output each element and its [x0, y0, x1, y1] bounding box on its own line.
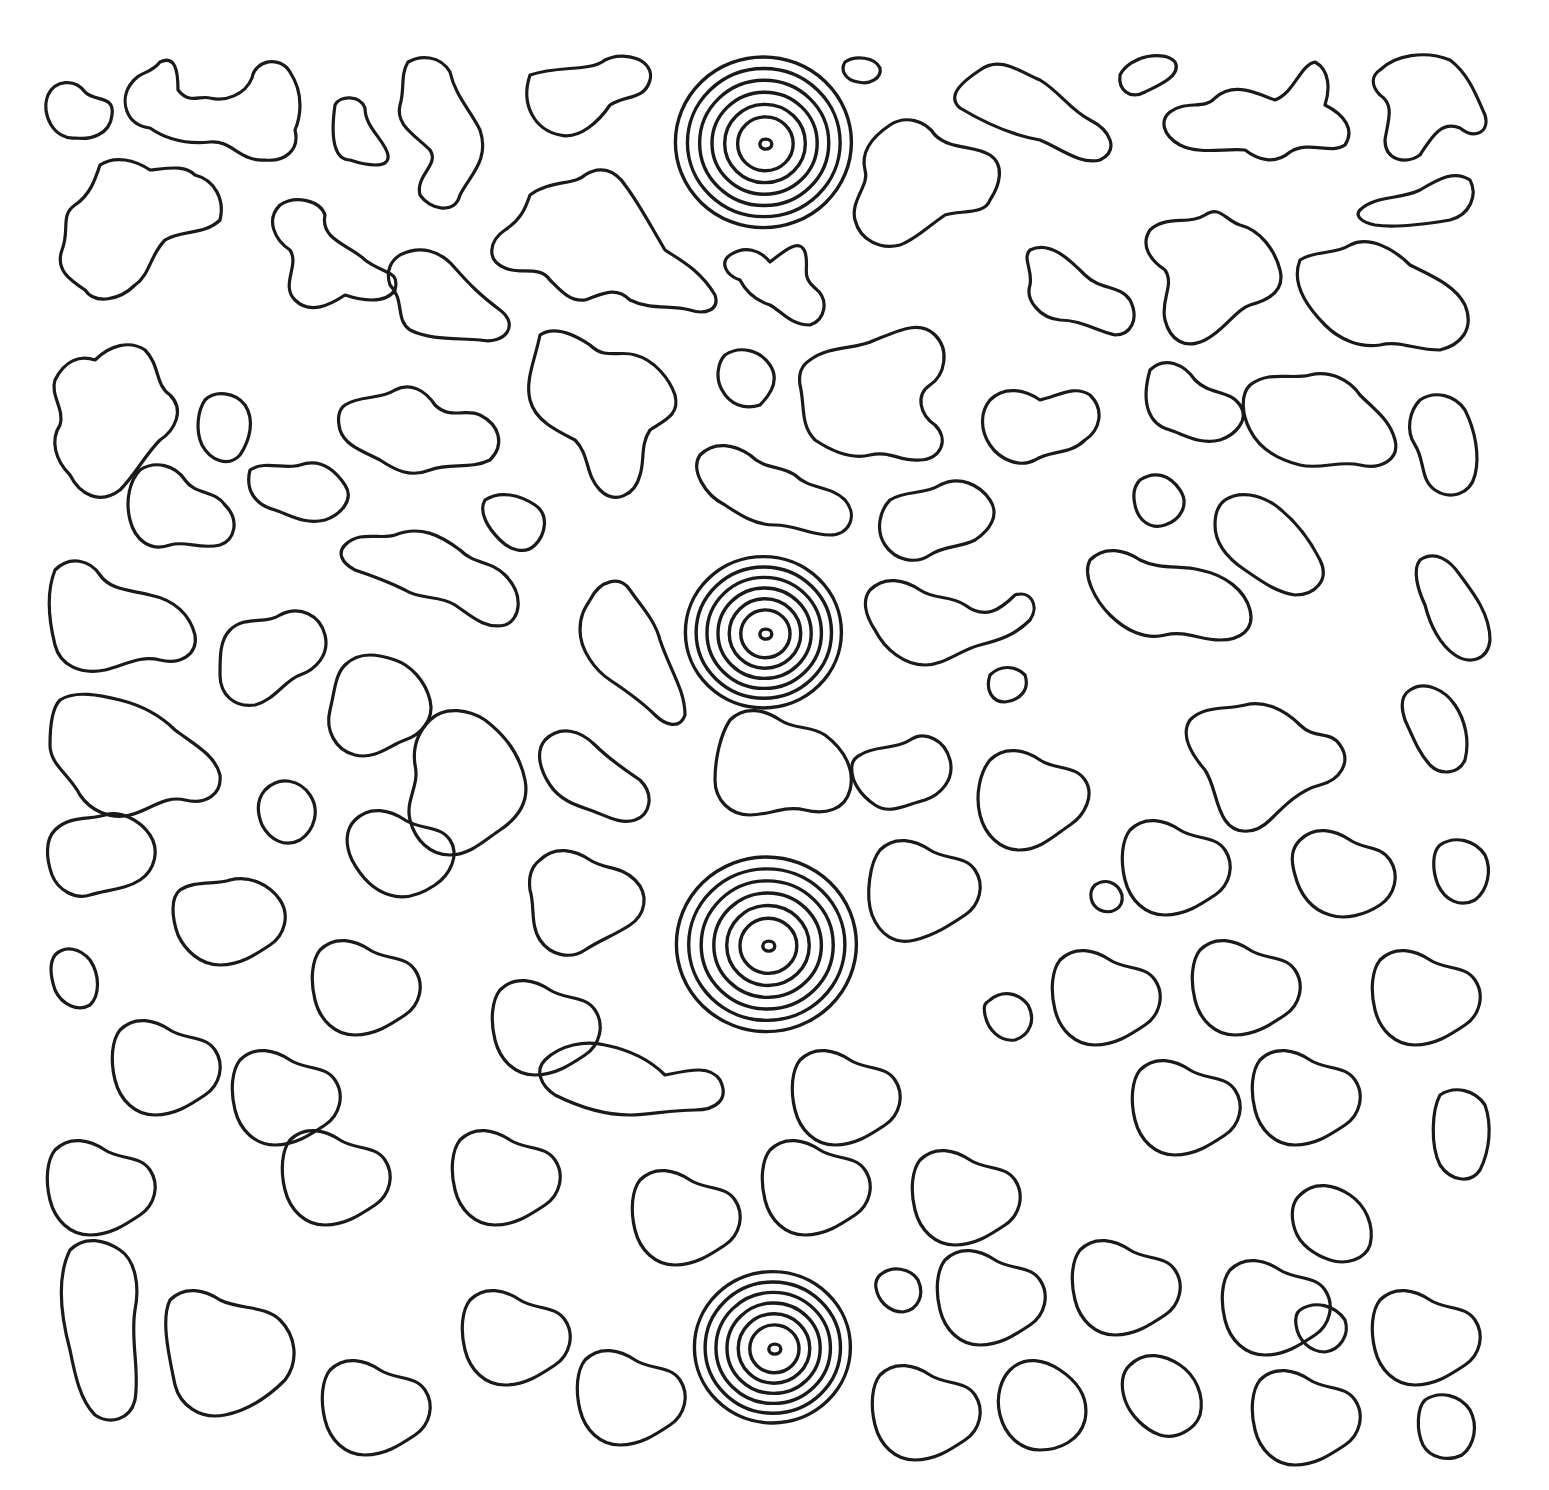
coloring-page-artwork	[0, 0, 1549, 1490]
background	[0, 0, 1549, 1490]
